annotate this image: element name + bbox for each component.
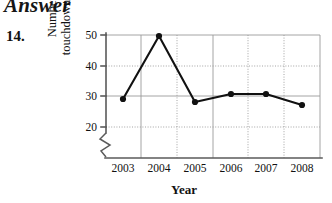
data-series-line (123, 36, 302, 105)
y-tick-label-20: 20 (86, 121, 98, 133)
x-axis-title: Year (0, 182, 332, 198)
line-chart-figure: Number of touchdown passes (0, 0, 332, 203)
chart-plot-area: 50 40 30 20 2003 2004 2005 2006 2007 200… (0, 0, 332, 203)
y-tick-label-30: 30 (86, 90, 98, 102)
x-tick-label-2007: 2007 (255, 162, 278, 174)
data-point-2004 (156, 33, 162, 39)
y-axis-break-icon (100, 133, 110, 157)
y-tick-label-40: 40 (86, 60, 98, 72)
x-tick-label-2004: 2004 (148, 162, 171, 174)
data-point-2005 (192, 99, 198, 105)
data-point-2007 (263, 91, 269, 97)
x-tick-label-2008: 2008 (291, 162, 314, 174)
x-tick-label-2003: 2003 (112, 162, 135, 174)
x-tick-label-2005: 2005 (184, 162, 207, 174)
x-axis-title-text: Year (171, 182, 197, 197)
data-point-2008 (299, 102, 305, 108)
x-tick-label-2006: 2006 (220, 162, 243, 174)
data-point-2003 (120, 96, 126, 102)
data-point-2006 (228, 91, 234, 97)
y-tick-label-50: 50 (86, 29, 98, 41)
